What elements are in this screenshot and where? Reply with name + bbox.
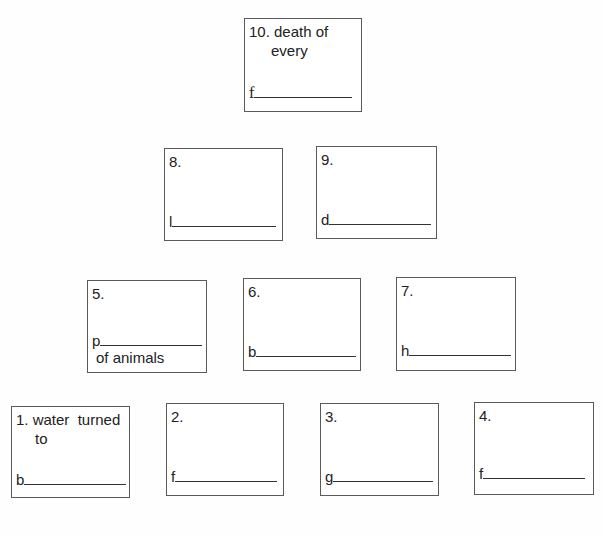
box-number: 2.: [171, 407, 184, 426]
answer-blank-line[interactable]: [333, 480, 433, 482]
answer-field[interactable]: f: [171, 468, 277, 485]
answer-first-letter: f: [171, 468, 175, 485]
answer-blank-line[interactable]: [24, 483, 126, 485]
box-number: 7.: [401, 281, 414, 300]
answer-first-letter: f: [249, 84, 254, 101]
worksheet-page: 10. death of every f 8. l 9. d 5. p of a…: [0, 0, 603, 536]
box-number: 3.: [325, 407, 338, 426]
answer-field[interactable]: g: [325, 468, 433, 485]
answer-first-letter: g: [325, 468, 333, 485]
answer-suffix-text: of animals: [96, 349, 164, 366]
answer-first-letter: h: [401, 342, 409, 359]
answer-first-letter: b: [16, 471, 24, 488]
box-number: 5.: [92, 284, 105, 303]
answer-field[interactable]: b: [16, 471, 126, 488]
plague-box-9: 9. d: [316, 146, 437, 239]
answer-blank-line[interactable]: [409, 354, 511, 356]
answer-field[interactable]: h: [401, 342, 511, 359]
answer-field[interactable]: l: [169, 213, 276, 230]
clue-text: water turned: [33, 411, 121, 428]
answer-first-letter: d: [321, 211, 329, 228]
plague-box-7: 7. h: [396, 277, 516, 371]
answer-blank-line[interactable]: [175, 480, 277, 482]
box-number: 6.: [248, 282, 261, 301]
plague-box-5: 5. p of animals: [87, 280, 207, 373]
plague-box-3: 3. g: [320, 403, 439, 496]
box-number: 1.: [16, 411, 29, 428]
box-number: 9.: [321, 150, 334, 169]
box-number: 8.: [169, 152, 182, 171]
plague-box-10: 10. death of every f: [244, 18, 362, 112]
answer-field[interactable]: d: [321, 211, 431, 228]
answer-field[interactable]: f: [479, 465, 585, 482]
answer-first-letter: p: [92, 332, 100, 349]
plague-box-6: 6. b: [243, 278, 361, 371]
answer-blank-line[interactable]: [100, 344, 202, 346]
answer-field[interactable]: b: [248, 343, 356, 360]
answer-first-letter: b: [248, 343, 256, 360]
answer-blank-line[interactable]: [254, 96, 352, 98]
answer-blank-line[interactable]: [329, 223, 431, 225]
answer-blank-line[interactable]: [172, 225, 276, 227]
answer-first-letter: l: [169, 213, 172, 230]
box-10-number-clue: 10. death of: [249, 22, 328, 41]
answer-blank-line[interactable]: [483, 477, 585, 479]
answer-blank-line[interactable]: [256, 355, 356, 357]
box-number: 10.: [249, 23, 270, 40]
plague-box-4: 4. f: [474, 402, 594, 495]
clue-text: death of: [274, 23, 328, 40]
answer-field[interactable]: f: [249, 84, 352, 101]
answer-field[interactable]: p: [92, 332, 202, 349]
clue-text-continued: to: [35, 429, 48, 448]
clue-text-continued: every: [271, 41, 308, 60]
plague-box-2: 2. f: [166, 403, 284, 496]
answer-first-letter: f: [479, 465, 483, 482]
plague-box-1: 1. water turned to b: [11, 406, 130, 498]
box-1-number-clue: 1. water turned: [16, 410, 120, 429]
box-number: 4.: [479, 406, 492, 425]
plague-box-8: 8. l: [164, 148, 283, 241]
